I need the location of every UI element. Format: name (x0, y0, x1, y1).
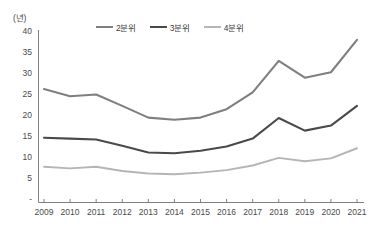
x-axis-tick-label: 2017 (240, 207, 266, 217)
x-axis-tick-label: 2012 (109, 207, 135, 217)
x-axis-tick-label: 2016 (214, 207, 240, 217)
x-axis-tick-label: 2019 (292, 207, 318, 217)
x-axis-tick-label: 2013 (135, 207, 161, 217)
series-line-3분위[interactable] (44, 106, 357, 153)
y-axis-tick-label: 15 (10, 131, 32, 141)
x-axis-tick-label: 2018 (266, 207, 292, 217)
x-axis-tick-label: 2015 (188, 207, 214, 217)
y-axis-tick-label: 5 (10, 173, 32, 183)
x-axis-tick-label: 2014 (161, 207, 187, 217)
x-axis-tick-label: 2021 (344, 207, 370, 217)
x-axis-tick-label: 2020 (318, 207, 344, 217)
x-axis-tick-label: 2009 (31, 207, 57, 217)
y-axis-tick-label: 40 (10, 26, 32, 36)
y-axis-tick-label: 20 (10, 110, 32, 120)
y-axis-tick-label: 35 (10, 47, 32, 57)
x-axis-tick-label: 2010 (57, 207, 83, 217)
line-chart: (년) 2분위3분위4분위 20092010201120122013201420… (0, 0, 371, 237)
series-line-2분위[interactable] (44, 40, 357, 120)
x-axis-tick-label: 2011 (83, 207, 109, 217)
y-axis-tick-label: 25 (10, 89, 32, 99)
y-axis-tick-label: - (10, 194, 32, 204)
series-line-4분위[interactable] (44, 148, 357, 174)
plot-area (0, 0, 371, 237)
y-axis-tick-label: 30 (10, 68, 32, 78)
y-axis-tick-label: 10 (10, 152, 32, 162)
